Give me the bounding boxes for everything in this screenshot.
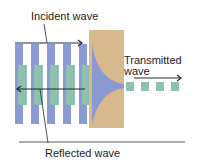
incident-leader-line xyxy=(44,24,47,43)
transmitted-wave-squares xyxy=(126,82,179,91)
wave-diagram: Incident wave Transmitted wave Reflected… xyxy=(0,0,199,167)
reflected-wave-label: Reflected wave xyxy=(45,147,120,159)
reflected-leader-line xyxy=(40,89,48,143)
incident-arrow xyxy=(15,24,82,46)
diagram-graphics xyxy=(0,0,199,167)
transmitted-wave-label-line2: wave xyxy=(124,65,150,77)
reflected-wave-bars xyxy=(18,65,89,105)
incident-wave-label: Incident wave xyxy=(31,10,98,22)
